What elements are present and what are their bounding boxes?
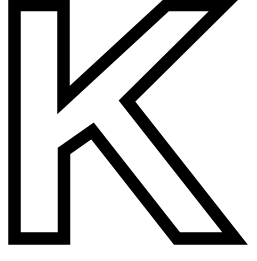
- letter-k-outline-graphic: K: [0, 0, 257, 261]
- letter-k-icon: [0, 0, 257, 261]
